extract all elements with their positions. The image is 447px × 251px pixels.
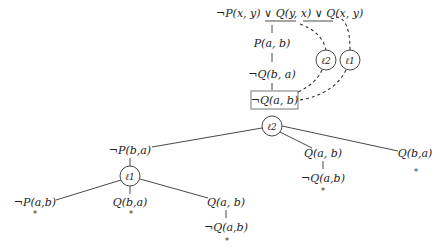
closed-marker: * (33, 209, 38, 219)
label-l1: ℓ1 (125, 172, 134, 182)
closed-marker: * (321, 186, 326, 196)
closed-marker: * (225, 236, 230, 246)
dashed-link-qxy-l1 (336, 17, 350, 50)
node-not-p-ba: ¬P(b,a) (109, 144, 151, 157)
label-l2: ℓ2 (267, 122, 277, 132)
node-q-ba-mid: Q(b,a) (113, 196, 148, 209)
dashed-link-l1-box (300, 70, 346, 100)
closed-marker: * (129, 209, 134, 219)
node-not-q-ba: ¬Q(b, a) (248, 68, 295, 81)
node-not-q-ab-right: ¬Q(a,b) (301, 172, 345, 185)
node-q-ab-left: Q(a, b) (207, 196, 245, 209)
dashed-link-qyx-l2 (300, 24, 326, 50)
node-not-q-ab-left: ¬Q(a,b) (204, 221, 248, 234)
edge-l1-qab (140, 179, 208, 198)
node-q-ba-far-right: Q(b,a) (398, 147, 433, 160)
edge-l1-npab (56, 180, 121, 200)
boxed-literal: ¬Q(a, b) (251, 94, 298, 107)
dashed-link-l2-box (296, 70, 322, 93)
edge-l2-qab (280, 132, 312, 148)
edge-l2-npba (152, 128, 262, 147)
node-p-ab: P(a, b) (253, 37, 291, 50)
clause-formula: ¬P(x, y) ∨ Q(y, x) ∨ Q(x, y) (216, 7, 363, 20)
tableau-diagram: ¬P(x, y) ∨ Q(y, x) ∨ Q(x, y) P(a, b) ¬Q(… (0, 0, 447, 251)
label-l1-top: ℓ1 (345, 56, 354, 66)
node-not-p-ab: ¬P(a,b) (14, 196, 56, 209)
closed-marker: * (414, 167, 419, 177)
label-l2-top: ℓ2 (321, 56, 331, 66)
node-q-ab-right: Q(a, b) (304, 147, 342, 160)
